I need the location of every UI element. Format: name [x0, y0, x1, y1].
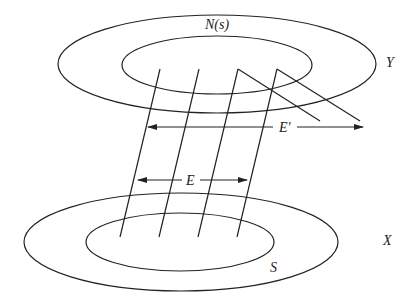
- diagonal-segment-1: [238, 69, 320, 121]
- bottom-inner-set-label: S: [270, 260, 277, 275]
- bottom-outer-ellipse-X: [24, 193, 338, 291]
- top-inner-set-label: N(s): [204, 17, 229, 33]
- fiber-line-4: [237, 69, 277, 237]
- fiber-line-2: [159, 69, 199, 237]
- top-space-label: Y: [386, 55, 396, 70]
- upper-arrow-label: E′: [278, 120, 292, 135]
- lower-arrow-label: E: [185, 173, 195, 188]
- bottom-inner-ellipse-S: [86, 213, 274, 271]
- diagonal-segment-2: [277, 69, 360, 121]
- fiber-line-1: [120, 69, 160, 237]
- bottom-space-label: X: [382, 233, 392, 248]
- top-inner-ellipse-Ns: [122, 36, 312, 94]
- set-diagram: E′ E N(s) Y X S: [0, 0, 418, 307]
